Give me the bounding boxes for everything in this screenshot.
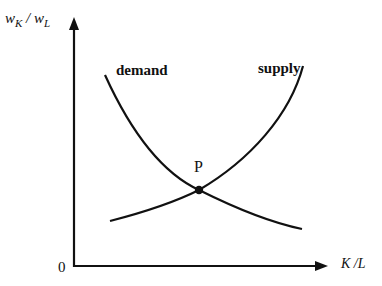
equilibrium-label: P [194, 158, 203, 176]
origin-label: 0 [58, 259, 66, 276]
demand-curve [105, 75, 302, 229]
supply-label: supply [258, 60, 301, 77]
y-label-slash: / [22, 10, 34, 26]
y-axis-arrowhead-icon [69, 17, 79, 30]
x-axis-arrowhead-icon [315, 261, 328, 271]
supply-demand-diagram: wK / wL 0 K /L demand supply P [0, 0, 382, 286]
x-axis-label: K /L [341, 256, 366, 272]
y-axis-label: wK / wL [5, 10, 50, 29]
y-label-w-right: w [34, 10, 44, 26]
y-label-w-left: w [5, 10, 15, 26]
supply-curve [110, 66, 303, 221]
y-label-sub-l: L [44, 17, 50, 29]
equilibrium-point [195, 186, 203, 194]
diagram-canvas [0, 0, 382, 286]
demand-label: demand [116, 62, 168, 79]
